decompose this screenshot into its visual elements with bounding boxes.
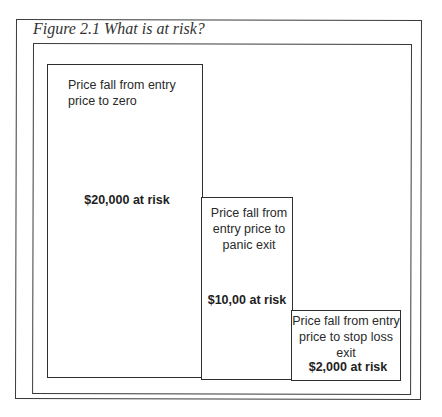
bar-entry-to-zero: Price fall from entry price to zero $20,… [47,64,203,378]
bar-description: Price fall from entry price to stop loss… [292,313,400,361]
bar-risk-label: $2,000 at risk [292,360,400,374]
bar-risk-label: $20,000 at risk [48,193,202,207]
bar-entry-to-stop-loss-exit: Price fall from entry price to stop loss… [291,310,401,381]
bar-entry-to-panic-exit: Price fall from entry price to panic exi… [201,197,293,380]
bar-description: Price fall from entry price to zero [68,77,198,109]
figure-caption: Figure 2.1 What is at risk? [33,20,205,38]
bar-risk-label: $10,00 at risk [202,293,292,307]
bar-description: Price fall from entry price to panic exi… [202,205,292,253]
